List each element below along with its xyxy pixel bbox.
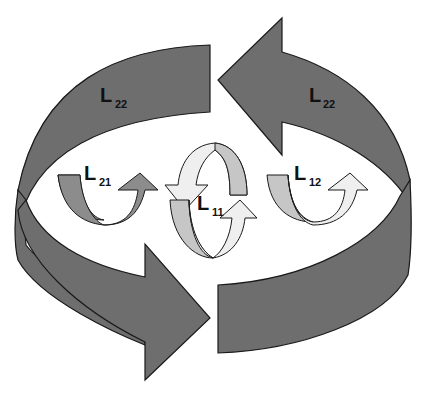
svg-text:L: L — [309, 84, 321, 106]
svg-text:22: 22 — [115, 98, 127, 110]
svg-text:11: 11 — [212, 206, 224, 218]
inner-loop-L11 — [165, 143, 257, 258]
outer-arrow-top-left — [218, 18, 410, 200]
outer-loop-right-band — [218, 180, 411, 353]
label-L12: L 12 — [294, 162, 321, 188]
svg-text:L: L — [84, 162, 96, 184]
feedback-loop-diagram: L 22 L 22 L 21 L 11 L 12 — [0, 0, 426, 394]
svg-text:22: 22 — [323, 98, 335, 110]
svg-text:L: L — [197, 192, 209, 214]
svg-text:21: 21 — [99, 176, 111, 188]
svg-text:L: L — [294, 162, 306, 184]
label-L11: L 11 — [197, 192, 224, 218]
label-L21: L 21 — [84, 162, 111, 188]
svg-text:12: 12 — [309, 176, 321, 188]
svg-text:L: L — [100, 84, 112, 106]
